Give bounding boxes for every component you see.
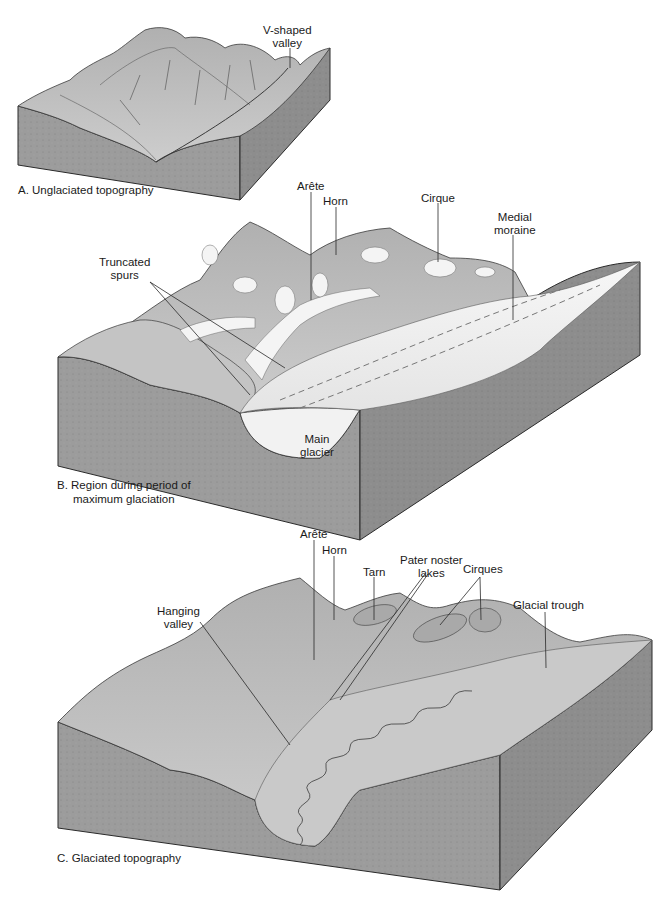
label-line: spurs: [99, 269, 150, 282]
panel-a-block: [18, 28, 330, 200]
label-line: Main: [300, 433, 334, 446]
caption-panel-a: A. Unglaciated topography: [18, 183, 154, 197]
label-line: V-shaped: [263, 24, 312, 37]
label-line: valley: [263, 37, 312, 50]
label-cirques: Cirques: [463, 563, 503, 576]
label-cirque-b: Cirque: [421, 192, 455, 205]
label-line: moraine: [494, 224, 536, 237]
label-medial-moraine: Medial moraine: [494, 211, 536, 237]
label-hanging-valley: Hanging valley: [157, 605, 200, 631]
label-line: Hanging: [157, 605, 200, 618]
label-arete-b: Arête: [297, 180, 325, 193]
label-main-glacier: Main glacier: [300, 433, 334, 459]
label-tarn: Tarn: [363, 566, 385, 579]
label-horn-b: Horn: [323, 195, 348, 208]
label-line: lakes: [400, 567, 463, 580]
caption-line: maximum glaciation: [57, 492, 191, 506]
label-line: Medial: [494, 211, 536, 224]
label-arete-c: Arête: [300, 528, 328, 541]
label-truncated-spurs: Truncated spurs: [99, 256, 150, 282]
glaciation-figure: V-shaped valley A. Unglaciated topograph…: [0, 0, 655, 902]
caption-panel-c: C. Glaciated topography: [57, 851, 181, 865]
panel-c-block: [58, 540, 652, 890]
label-line: glacier: [300, 446, 334, 459]
caption-line: B. Region during period of: [57, 478, 191, 492]
label-horn-c: Horn: [322, 544, 347, 557]
caption-panel-b: B. Region during period of maximum glaci…: [57, 478, 191, 506]
label-glacial-trough: Glacial trough: [513, 599, 584, 612]
label-line: Pater noster: [400, 554, 463, 567]
label-v-shaped-valley: V-shaped valley: [263, 24, 312, 50]
label-line: valley: [157, 618, 200, 631]
label-pater-noster-lakes: Pater noster lakes: [400, 554, 463, 580]
label-line: Truncated: [99, 256, 150, 269]
